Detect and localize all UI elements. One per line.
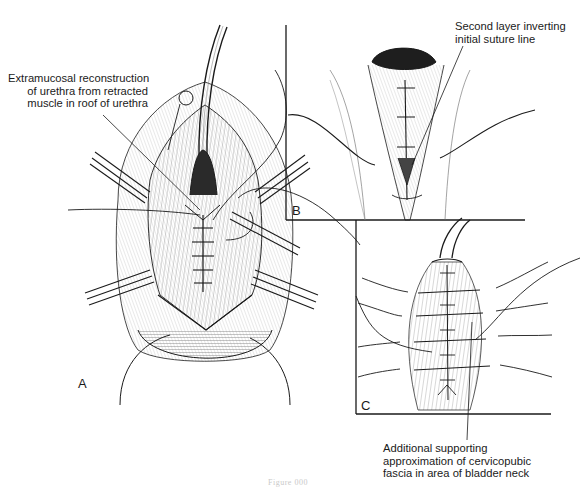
annotation-second-layer: Second layer inverting initial suture li… [455, 20, 566, 45]
annotation-line: of urethra from retracted [8, 85, 148, 98]
panel-a-letter: A [78, 376, 87, 391]
figure-caption: Figure 000 [268, 478, 308, 487]
panel-b-letter: B [292, 203, 301, 218]
annotation-line: initial suture line [455, 33, 566, 46]
panel-c-drawing [356, 218, 580, 440]
annotation-line: fascia in area of bladder neck [383, 467, 531, 480]
annotation-line: approximation of cervicopubic [383, 455, 531, 468]
annotation-line: Second layer inverting [455, 20, 566, 33]
annotation-line: Extramucosal reconstruction [8, 72, 148, 85]
annotation-additional-support: Additional supporting approximation of c… [383, 442, 531, 480]
panel-b-drawing [288, 46, 535, 220]
annotation-line: muscle in roof of urethra [8, 97, 148, 110]
annotation-line: Additional supporting [383, 442, 531, 455]
annotation-extramucosal-reconstruction: Extramucosal reconstruction of urethra f… [8, 72, 148, 110]
figure-canvas: B [0, 0, 587, 492]
panel-c-letter: C [361, 398, 370, 413]
